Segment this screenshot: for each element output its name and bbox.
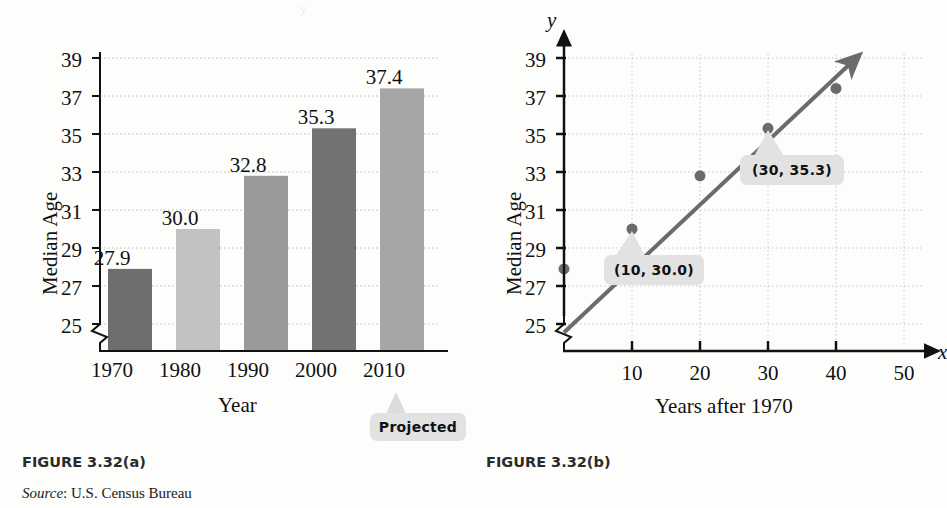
source-label: Source <box>22 485 63 501</box>
source-value: U.S. Census Bureau <box>71 485 192 501</box>
callout-bubble-30-35[interactable]: (30, 35.3) <box>740 155 844 185</box>
bar-y-tick-25: 25 <box>52 316 82 337</box>
bar-1970[interactable] <box>108 269 152 350</box>
figure-b-caption: FIGURE 3.32(b) <box>486 454 611 470</box>
bar-value-label-2000: 35.3 <box>284 107 348 128</box>
data-point-20-32-8[interactable] <box>695 170 706 181</box>
bar-value-label-1970: 27.9 <box>80 248 144 269</box>
projected-callout-bubble[interactable]: Projected <box>370 413 466 441</box>
scatter-x-tick-20: 20 <box>666 363 734 384</box>
scatter-y-tick-39: 39 <box>516 50 546 71</box>
bar-value-label-2010: 37.4 <box>352 67 416 88</box>
callout-bubble-10-30[interactable]: (10, 30.0) <box>604 255 704 285</box>
bar-y-tick-31: 31 <box>52 202 82 223</box>
figure-a-caption: FIGURE 3.32(a) <box>22 454 146 470</box>
bar-2000[interactable] <box>312 128 356 350</box>
scatter-x-tick-30: 30 <box>734 363 802 384</box>
bar-y-tick-37: 37 <box>52 88 82 109</box>
bar-chart-axis-break-symbol <box>92 316 107 352</box>
callout-tail-10-30 <box>614 231 644 258</box>
bar-chart-plot-area <box>88 48 458 378</box>
trend-line <box>564 62 852 333</box>
scatter-x-ticks <box>632 341 836 351</box>
bar-x-tick-1980: 1980 <box>146 360 214 381</box>
scatter-y-tick-33: 33 <box>516 164 546 185</box>
scatter-y-tick-31: 31 <box>516 202 546 223</box>
bar-x-tick-1990: 1990 <box>214 360 282 381</box>
bar-y-tick-29: 29 <box>52 240 82 261</box>
bar-x-tick-2010: 2010 <box>350 360 418 381</box>
bar-y-tick-27: 27 <box>52 278 82 299</box>
scatter-x-axis-symbol: x <box>938 340 947 365</box>
bar-1990[interactable] <box>244 176 288 350</box>
scatter-gridlines-vertical <box>632 54 904 344</box>
scatter-axis-break-symbol <box>556 316 571 352</box>
scatter-y-tick-25: 25 <box>516 316 546 337</box>
scatter-x-tick-40: 40 <box>802 363 870 384</box>
bar-y-tick-39: 39 <box>52 50 82 71</box>
bar-1980[interactable] <box>176 229 220 350</box>
scatter-y-tick-29: 29 <box>516 240 546 261</box>
scatter-x-axis-title: Years after 1970 <box>655 394 793 419</box>
figure-a-source: Source: U.S. Census Bureau <box>22 485 192 502</box>
bar-2010[interactable] <box>380 88 424 350</box>
bar-chart-x-axis-title: Year <box>218 393 257 418</box>
scatter-y-tick-27: 27 <box>516 278 546 299</box>
figure-3-32-a: Median Age 39 37 35 33 31 29 27 25 <box>0 0 464 508</box>
source-separator: : <box>63 485 71 501</box>
figure-3-32-b: y Median Age 39 37 35 33 31 29 27 25 <box>464 0 928 508</box>
bar-chart-y-ticks <box>92 58 100 324</box>
scatter-x-tick-50: 50 <box>870 363 938 384</box>
data-point-40-37-4[interactable] <box>831 83 842 94</box>
bar-y-tick-33: 33 <box>52 164 82 185</box>
scatter-y-axis-symbol: y <box>547 8 556 33</box>
bar-value-label-1980: 30.0 <box>148 208 212 229</box>
scatter-x-tick-10: 10 <box>598 363 666 384</box>
scatter-y-tick-37: 37 <box>516 88 546 109</box>
bar-x-tick-2000: 2000 <box>282 360 350 381</box>
bar-x-tick-1970: 1970 <box>78 360 146 381</box>
bar-value-label-1990: 32.8 <box>216 155 280 176</box>
scatter-y-tick-35: 35 <box>516 126 546 147</box>
bar-y-tick-35: 35 <box>52 126 82 147</box>
scatter-plot-area <box>552 48 942 388</box>
